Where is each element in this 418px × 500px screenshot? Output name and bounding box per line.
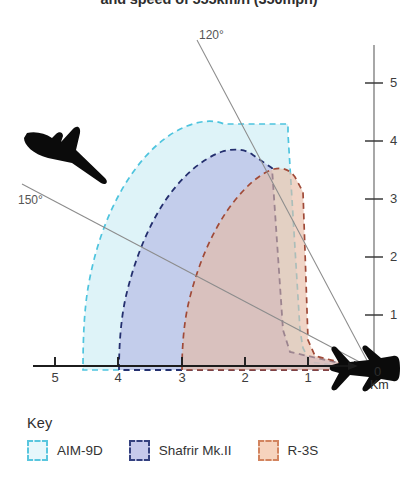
envelope-plot <box>0 0 418 418</box>
legend-swatch-aim-9d <box>27 440 48 461</box>
legend-swatch-r-3s <box>258 440 279 461</box>
y-tick-label-5: 5 <box>390 75 410 90</box>
missile-envelope-figure: and speed of 555km/h (350mph) <box>0 0 418 500</box>
angle-label-150: 150° <box>18 193 43 207</box>
legend-item-r-3s[interactable]: R-3S <box>258 440 319 461</box>
y-tick-label-1: 1 <box>390 307 410 322</box>
legend: Key AIM-9D Shafrir Mk.II R-3S <box>27 415 418 461</box>
angle-label-120: 120° <box>199 28 224 42</box>
x-tick-label-1: 1 <box>298 370 318 385</box>
x-tick-label-3: 3 <box>172 370 192 385</box>
legend-label-shafrir-mk-ii: Shafrir Mk.II <box>159 443 232 458</box>
y-tick-label-4: 4 <box>390 133 410 148</box>
legend-title: Key <box>27 415 418 431</box>
x-tick-label-2: 2 <box>235 370 255 385</box>
legend-items: AIM-9D Shafrir Mk.II R-3S <box>27 440 418 461</box>
legend-item-shafrir-mk-ii[interactable]: Shafrir Mk.II <box>129 440 232 461</box>
legend-swatch-shafrir-mk-ii <box>129 440 150 461</box>
legend-label-aim-9d: AIM-9D <box>57 443 103 458</box>
axis-unit-label: Km <box>370 378 389 392</box>
x-tick-label-4: 4 <box>108 370 128 385</box>
legend-item-aim-9d[interactable]: AIM-9D <box>27 440 103 461</box>
origin-label: 0 <box>374 364 381 379</box>
launching-aircraft-icon <box>330 346 400 392</box>
y-tick-label-3: 3 <box>390 191 410 206</box>
y-tick-label-2: 2 <box>390 249 410 264</box>
legend-label-r-3s: R-3S <box>288 443 319 458</box>
x-tick-label-5: 5 <box>45 370 65 385</box>
target-aircraft-icon <box>24 127 107 184</box>
